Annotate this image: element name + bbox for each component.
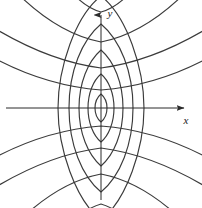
- figure-container: x y: [0, 0, 202, 208]
- y-axis-label: y: [107, 7, 113, 19]
- hyperbolic-curve-lower-4: [58, 204, 144, 208]
- coordinate-axes: [6, 15, 184, 200]
- x-axis-label: x: [183, 114, 189, 126]
- orthogonal-curves-figure: x y: [0, 0, 202, 208]
- hyperbolic-curve-upper-4: [58, 0, 144, 12]
